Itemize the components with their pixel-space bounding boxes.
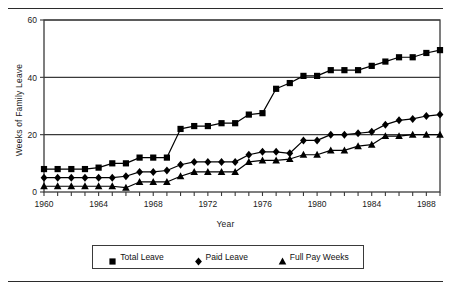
y-axis-title: Weeks of Family Leave [14,50,24,170]
legend-item-full-pay-weeks[interactable]: Full Pay Weeks [277,252,349,262]
svg-text:1976: 1976 [253,199,272,209]
svg-text:0: 0 [32,187,37,197]
data-series-layer [40,47,444,191]
legend-item-paid-leave[interactable]: Paid Leave [193,252,249,262]
svg-text:1972: 1972 [198,199,217,209]
svg-text:1984: 1984 [362,199,381,209]
square-marker-icon [107,253,116,262]
svg-text:1988: 1988 [417,199,436,209]
svg-text:1964: 1964 [89,199,108,209]
x-axis-tick-labels: 19601964196819721976198019841988 [35,199,437,209]
svg-text:1980: 1980 [308,199,327,209]
legend-label: Total Leave [120,252,163,262]
legend-label: Full Pay Weeks [290,252,349,262]
chart-figure: 0204060 19601964196819721976198019841988… [0,0,451,290]
series-total-leave [41,47,443,172]
series-full-pay-weeks [40,131,444,191]
x-axis-title: Year [0,219,451,229]
svg-text:60: 60 [28,15,38,25]
chart-legend: Total Leave Paid Leave Full Pay Weeks [92,245,364,269]
gridlines [44,20,440,135]
triangle-marker-icon [277,253,286,262]
svg-text:1960: 1960 [35,199,54,209]
svg-text:1968: 1968 [144,199,163,209]
diamond-marker-icon [193,253,202,262]
legend-item-total-leave[interactable]: Total Leave [107,252,163,262]
legend-label: Paid Leave [206,252,249,262]
series-paid-leave [41,111,444,182]
svg-text:40: 40 [28,73,38,83]
svg-text:20: 20 [28,130,38,140]
